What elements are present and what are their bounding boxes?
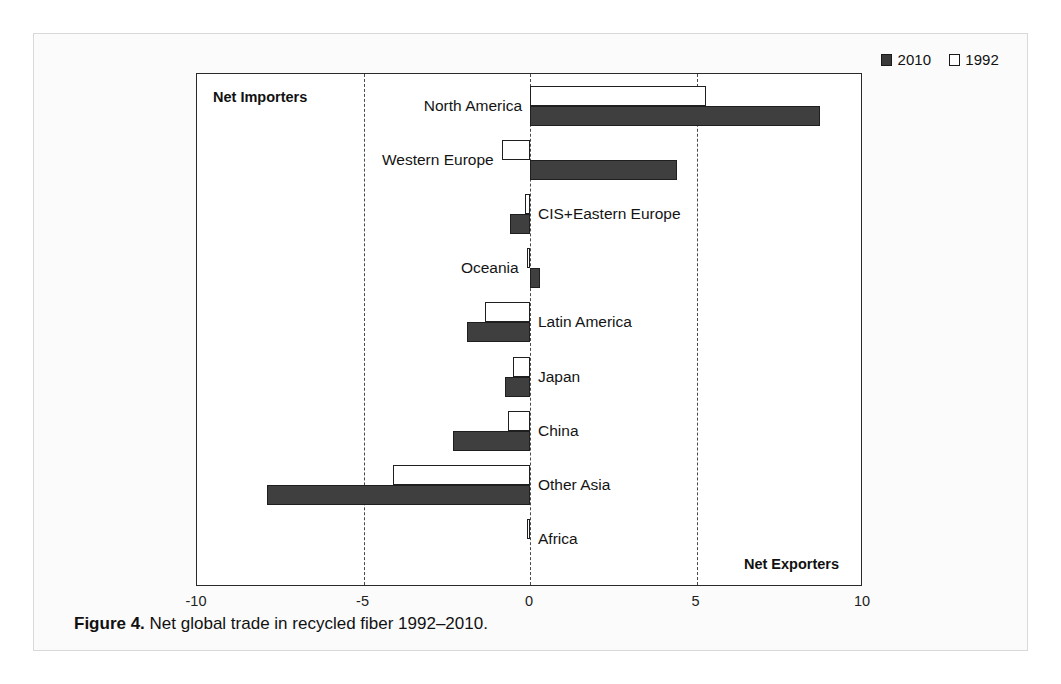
- caption-body: Net global trade in recycled fiber 1992–…: [145, 614, 488, 633]
- bar-2010: [530, 268, 540, 288]
- bar-1992: [513, 357, 530, 377]
- bar-category-label: Latin America: [538, 315, 632, 331]
- bar-1992: [508, 411, 530, 431]
- caption-figure-number: Figure 4.: [74, 614, 145, 633]
- bar-category-label: China: [538, 423, 579, 439]
- legend-label-2010: 2010: [897, 51, 931, 68]
- legend-swatch-hollow-square-icon: [949, 54, 960, 66]
- bar-2010: [453, 431, 530, 451]
- x-tick-neg10: -10: [186, 593, 207, 609]
- figure-caption: Figure 4. Net global trade in recycled f…: [74, 614, 488, 634]
- bar-category-label: Western Europe: [382, 152, 494, 168]
- bar-2010: [505, 377, 530, 397]
- bar-1992: [485, 302, 530, 322]
- legend-swatch-filled-square-icon: [881, 54, 892, 66]
- bar-1992: [527, 248, 530, 268]
- figure-panel: 2010 1992 Net Importers Net Exporters No…: [33, 33, 1028, 651]
- x-tick-5: 5: [691, 593, 699, 609]
- bar-group: Western Europe: [197, 140, 861, 194]
- bar-2010: [510, 214, 530, 234]
- bar-group: CIS+Eastern Europe: [197, 194, 861, 248]
- bar-group: Africa: [197, 519, 861, 573]
- bar-category-label: Africa: [538, 531, 578, 547]
- bar-category-label: Japan: [538, 369, 580, 385]
- bar-1992: [393, 465, 530, 485]
- bar-category-label: North America: [424, 98, 522, 114]
- bar-group: Other Asia: [197, 465, 861, 519]
- bar-category-label: Oceania: [461, 261, 519, 277]
- bar-group: Latin America: [197, 302, 861, 356]
- bar-1992: [502, 140, 530, 160]
- bar-group: Japan: [197, 357, 861, 411]
- bar-category-label: Other Asia: [538, 477, 610, 493]
- x-tick-neg5: -5: [356, 593, 369, 609]
- bar-1992: [527, 519, 530, 539]
- bar-2010: [530, 160, 677, 180]
- bar-2010: [467, 322, 530, 342]
- legend-entry-2010: 2010: [881, 51, 931, 68]
- bar-category-label: CIS+Eastern Europe: [538, 206, 681, 222]
- bar-2010: [267, 485, 530, 505]
- x-tick-0: 0: [525, 593, 533, 609]
- bar-1992: [530, 86, 706, 106]
- plot-area: Net Importers Net Exporters North Americ…: [196, 73, 862, 586]
- bar-1992: [525, 194, 530, 214]
- legend-label-1992: 1992: [965, 51, 999, 68]
- x-tick-10: 10: [854, 593, 870, 609]
- bar-group: Oceania: [197, 248, 861, 302]
- chart-legend: 2010 1992: [881, 51, 999, 68]
- bar-group: China: [197, 411, 861, 465]
- bar-group: North America: [197, 86, 861, 140]
- bar-2010: [530, 106, 820, 126]
- legend-entry-1992: 1992: [949, 51, 999, 68]
- figure-root: 2010 1992 Net Importers Net Exporters No…: [0, 0, 1061, 684]
